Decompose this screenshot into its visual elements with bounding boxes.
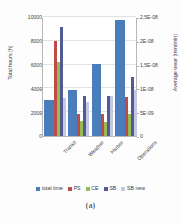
legend-swatch-icon bbox=[121, 187, 125, 191]
y-tick-mark-right bbox=[137, 137, 139, 138]
bar-group bbox=[91, 18, 115, 136]
y-tick-mark-right bbox=[137, 18, 139, 19]
chart-legend: total timePSCESBSB new bbox=[0, 186, 181, 191]
x-category-label-weather: Weather bbox=[87, 140, 104, 157]
y-tick-mark-left bbox=[40, 89, 42, 90]
y-tick-label-right: 5E-09 bbox=[140, 111, 154, 116]
y-tick-label-right: 2,5E-08 bbox=[140, 15, 158, 20]
y-tick-mark-right bbox=[137, 66, 139, 67]
legend-label: PS bbox=[74, 186, 81, 191]
y-tick-mark-right bbox=[137, 89, 139, 90]
y-tick-mark-left bbox=[40, 18, 42, 19]
y-tick-mark-left bbox=[40, 66, 42, 67]
bar-sb-new bbox=[86, 102, 89, 136]
x-category-label-harbor: Harbor bbox=[110, 140, 125, 155]
legend-label: SB new bbox=[127, 186, 145, 191]
legend-label: SB bbox=[109, 186, 116, 191]
y-tick-label-right: 1,5E-08 bbox=[140, 63, 158, 68]
bar-group bbox=[114, 18, 138, 136]
legend-label: total time bbox=[42, 186, 63, 191]
y-tick-mark-left bbox=[40, 42, 42, 43]
legend-swatch-icon bbox=[104, 187, 108, 191]
bar-sb-new bbox=[63, 98, 66, 136]
y-axis-title-right: Average wear [mm/min] bbox=[173, 28, 178, 98]
legend-item-sb[interactable]: SB bbox=[104, 186, 117, 191]
bar-group bbox=[43, 18, 67, 136]
figure-panel: Total hours [h] Average wear [mm/min] 02… bbox=[0, 0, 181, 224]
y-tick-mark-left bbox=[40, 113, 42, 114]
legend-swatch-icon bbox=[68, 187, 72, 191]
legend-item-sb-new[interactable]: SB new bbox=[121, 186, 145, 191]
figure-caption: (a) bbox=[0, 201, 181, 210]
legend-swatch-icon bbox=[36, 187, 40, 191]
gridline bbox=[43, 16, 136, 17]
y-tick-mark-right bbox=[137, 113, 139, 114]
x-category-label-operations: Operations bbox=[137, 140, 159, 162]
y-axis-title-left: Total hours [h] bbox=[8, 28, 13, 98]
y-tick-label-right: 2E-08 bbox=[140, 39, 154, 44]
bar-sb-new bbox=[110, 96, 113, 136]
bar-total-time bbox=[44, 100, 54, 136]
x-category-label-transit: Transit bbox=[62, 140, 77, 155]
legend-swatch-icon bbox=[86, 187, 90, 191]
bar-total-time bbox=[68, 90, 78, 136]
legend-item-ce[interactable]: CE bbox=[86, 186, 99, 191]
plot-area bbox=[42, 18, 137, 137]
y-tick-label-right: 0 bbox=[140, 134, 143, 139]
y-tick-mark-right bbox=[137, 42, 139, 43]
y-tick-mark-left bbox=[40, 137, 42, 138]
bar-group bbox=[67, 18, 91, 136]
y-tick-label-right: 1E-08 bbox=[140, 87, 154, 92]
legend-label: CE bbox=[91, 186, 98, 191]
legend-item-total-time[interactable]: total time bbox=[36, 186, 63, 191]
legend-item-ps[interactable]: PS bbox=[68, 186, 81, 191]
bar-total-time bbox=[92, 64, 102, 136]
bar-total-time bbox=[115, 20, 125, 136]
